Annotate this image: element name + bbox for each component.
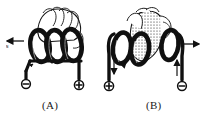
panel-b-field-label: N: [181, 47, 184, 51]
panel-b-caption: (B): [146, 99, 162, 111]
panel-b-artwork: [104, 8, 199, 91]
panel-b-terminal-positive: [104, 81, 113, 90]
panel-a-field-label: N: [6, 45, 9, 49]
panel-a-leads: [26, 61, 81, 79]
panel-a-terminal-positive: [74, 80, 83, 89]
panel-a-artwork: [7, 7, 84, 89]
panel-a-terminal-negative: [22, 80, 31, 89]
figure-container: N N (A) (B): [0, 0, 206, 120]
figure-artwork: [0, 0, 206, 120]
panel-a-caption: (A): [42, 99, 58, 111]
panel-b-terminal-negative: [178, 82, 187, 91]
